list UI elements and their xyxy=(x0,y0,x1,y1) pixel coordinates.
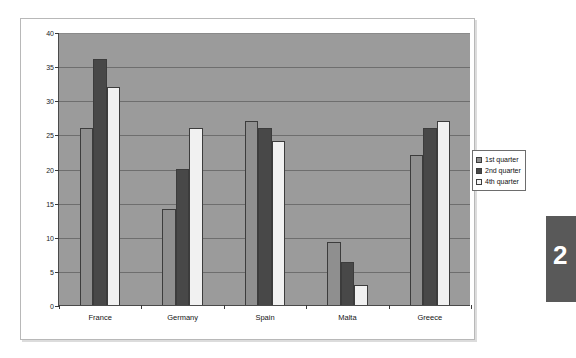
series-1-swatch xyxy=(476,157,482,163)
bar xyxy=(258,128,272,305)
bar xyxy=(341,262,355,305)
bar-group-bars xyxy=(141,33,223,305)
bar xyxy=(327,242,341,305)
bar xyxy=(107,87,121,305)
bar xyxy=(272,141,286,305)
legend-item-label: 2nd quarter xyxy=(485,167,521,174)
bar-group-bars xyxy=(389,33,471,305)
series-2-swatch xyxy=(476,168,482,174)
bar-group-bars xyxy=(59,33,141,305)
y-axis-tick-label: 30 xyxy=(46,98,54,105)
x-axis-tick-mark xyxy=(224,305,225,309)
legend-item: 1st quarter xyxy=(476,154,521,165)
page-root: 0510152025303540 FranceGermanySpainMalta… xyxy=(0,0,576,358)
legend-item-label: 4th quarter xyxy=(485,178,519,185)
bar-group xyxy=(59,33,141,305)
y-axis-tick-label: 15 xyxy=(46,200,54,207)
plot-wrapper: 0510152025303540 FranceGermanySpainMalta… xyxy=(39,33,469,328)
x-axis-category-label: Germany xyxy=(167,314,198,322)
x-axis-tick-mark xyxy=(59,305,60,309)
series-3-swatch xyxy=(476,179,482,185)
chart-card: 0510152025303540 FranceGermanySpainMalta… xyxy=(20,18,475,340)
x-axis-tick-mark xyxy=(471,305,472,309)
bar-group xyxy=(141,33,223,305)
x-axis-tick-mark xyxy=(141,305,142,309)
chart-legend: 1st quarter2nd quarter4th quarter xyxy=(472,150,526,191)
y-axis-tick-label: 25 xyxy=(46,132,54,139)
bar xyxy=(80,128,94,305)
y-axis-tick-label: 20 xyxy=(46,166,54,173)
bar-group xyxy=(224,33,306,305)
bar-group xyxy=(306,33,388,305)
bar xyxy=(93,59,107,305)
bar-group-bars xyxy=(306,33,388,305)
y-axis-tick-label: 35 xyxy=(46,64,54,71)
x-axis-tick-mark xyxy=(306,305,307,309)
y-axis-tick-label: 10 xyxy=(46,234,54,241)
legend-item: 4th quarter xyxy=(476,176,521,187)
bar xyxy=(410,155,424,305)
legend-item: 2nd quarter xyxy=(476,165,521,176)
bar xyxy=(423,128,437,305)
page-number-tab: 2 xyxy=(546,216,576,302)
x-axis-tick-mark xyxy=(389,305,390,309)
x-axis-category-label: Malta xyxy=(338,314,356,322)
bar xyxy=(354,285,368,305)
plot-area: 0510152025303540 FranceGermanySpainMalta… xyxy=(58,33,470,306)
bar xyxy=(176,169,190,306)
bar xyxy=(189,128,203,305)
x-axis-category-label: France xyxy=(89,314,112,322)
x-axis-category-label: Greece xyxy=(417,314,442,322)
y-axis-tick-label: 40 xyxy=(46,30,54,37)
bar xyxy=(162,209,176,305)
bar xyxy=(437,121,451,305)
bar-group-bars xyxy=(224,33,306,305)
bar xyxy=(245,121,259,305)
page-number-label: 2 xyxy=(553,242,567,268)
y-axis-tick-label: 5 xyxy=(50,268,54,275)
legend-item-label: 1st quarter xyxy=(485,156,518,163)
y-axis-tick-label: 0 xyxy=(50,303,54,310)
bar-group xyxy=(389,33,471,305)
x-axis-category-label: Spain xyxy=(255,314,274,322)
